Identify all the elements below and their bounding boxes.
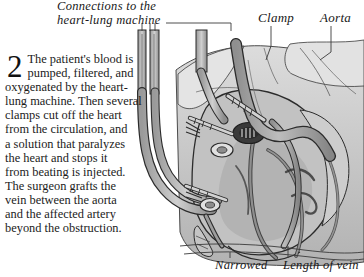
label-connections-line2: heart-lung machine bbox=[57, 13, 161, 27]
label-connections-to-heart-lung-machine: Connections to the heart-lung machine bbox=[57, 0, 161, 27]
label-aorta: Aorta bbox=[320, 10, 351, 26]
step-paragraph: 2The patient's blood is pumped, filtered… bbox=[5, 52, 177, 235]
step-body-text: The patient's blood is pumped, filtered,… bbox=[5, 52, 142, 235]
label-narrowed: Narrowed bbox=[215, 258, 268, 273]
label-clamp: Clamp bbox=[258, 10, 294, 26]
label-connections-line1: Connections to the bbox=[57, 0, 161, 13]
label-length-of-vein: Length of vein bbox=[283, 258, 359, 273]
step-number-dropcap: 2 bbox=[5, 52, 28, 80]
illustration-page: Connections to the heart-lung machine Cl… bbox=[0, 0, 364, 277]
